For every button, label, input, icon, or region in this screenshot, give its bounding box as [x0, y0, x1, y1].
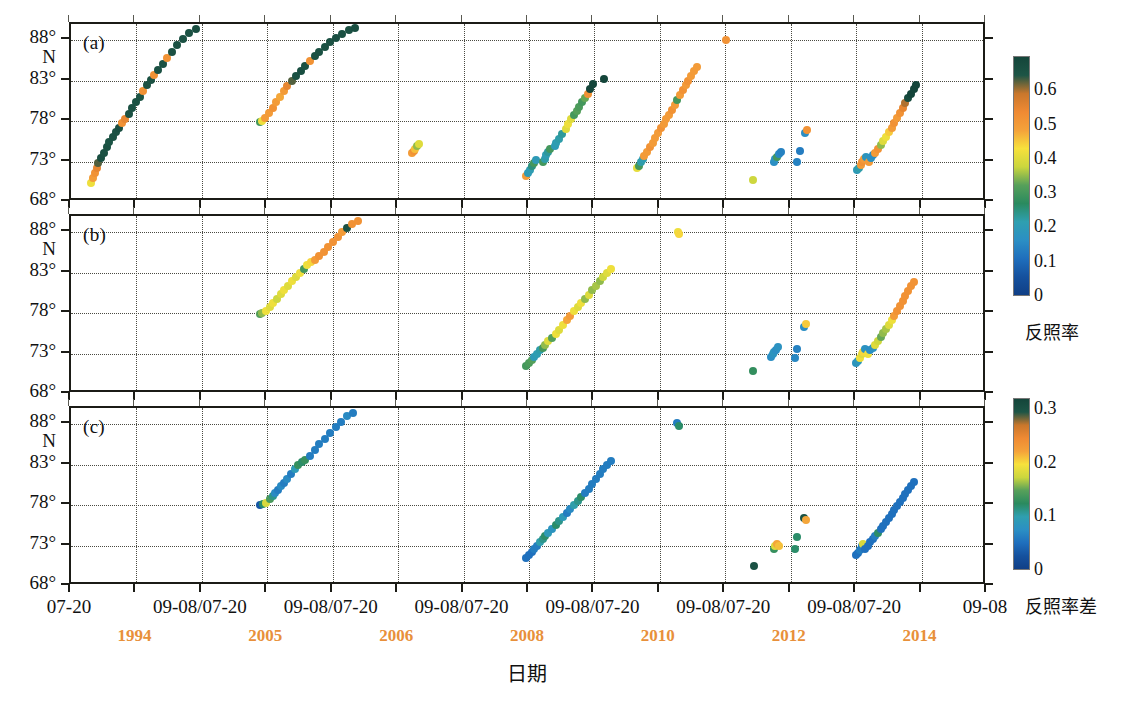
- x-axis-tick-top: [461, 15, 462, 22]
- y-axis-tick: [61, 421, 70, 423]
- vertical-gridline: [725, 24, 726, 198]
- plot-panel-c: (c): [69, 406, 985, 584]
- x-axis-year-label: 2006: [346, 626, 446, 646]
- data-point: [607, 265, 615, 273]
- data-point: [774, 343, 782, 351]
- vertical-gridline: [398, 24, 399, 198]
- x-axis-tick-top: [919, 207, 920, 214]
- x-axis-tick: [919, 584, 921, 592]
- panel-plot-area: [71, 24, 983, 198]
- vertical-gridline: [791, 216, 792, 390]
- x-axis-tick-top: [526, 399, 527, 406]
- y-axis-tick-label: 73°: [0, 533, 56, 552]
- colorbar-tick-label: 0: [1034, 285, 1043, 306]
- data-point: [354, 217, 362, 225]
- data-point: [675, 422, 683, 430]
- y-axis-tick-right: [984, 159, 993, 161]
- y-axis-tick: [61, 229, 70, 231]
- data-point: [793, 533, 801, 541]
- colorbar-tick-label: 0.5: [1034, 114, 1057, 135]
- data-point: [791, 354, 799, 362]
- plot-panel-b: (b): [69, 214, 985, 392]
- x-axis-tick-top: [264, 15, 265, 22]
- data-point: [607, 457, 615, 465]
- vertical-gridline: [594, 24, 595, 198]
- vertical-gridline: [660, 408, 661, 582]
- y-axis-tick-label: 73°: [0, 149, 56, 168]
- x-axis-tick-top: [330, 15, 331, 22]
- horizontal-gridline: [71, 232, 983, 233]
- panel-label: (c): [83, 416, 105, 438]
- y-axis-tick-label: 78°: [0, 300, 56, 319]
- x-axis-tick-top: [591, 399, 592, 406]
- x-axis-tick-top: [657, 207, 658, 214]
- x-axis-tick-top: [526, 207, 527, 214]
- x-axis-year-label: 2014: [870, 626, 970, 646]
- x-axis-tick: [68, 584, 70, 592]
- vertical-gridline: [202, 408, 203, 582]
- x-axis-tick: [199, 584, 201, 592]
- y-axis-tick-right: [984, 462, 993, 464]
- y-axis-tick: [61, 502, 70, 504]
- x-axis-year-label: 2005: [215, 626, 315, 646]
- y-axis-tick-label: 88°: [0, 219, 56, 238]
- y-axis-tick: [61, 118, 70, 120]
- x-axis-tick-top: [591, 15, 592, 22]
- x-axis-tick-top: [919, 15, 920, 22]
- y-axis-tick-right: [984, 118, 993, 120]
- y-axis-tick-label: 68°: [0, 381, 56, 400]
- x-axis-tick-top: [788, 399, 789, 406]
- y-axis-tick-right: [984, 351, 993, 353]
- x-axis-tick: [853, 584, 855, 592]
- x-axis-tick-top: [330, 399, 331, 406]
- vertical-gridline: [398, 216, 399, 390]
- y-axis-tick-right: [984, 310, 993, 312]
- x-axis-tick-top: [722, 207, 723, 214]
- y-axis-tick-right: [984, 502, 993, 504]
- albedo-colorbar: [1013, 56, 1030, 296]
- x-axis-tick-top: [199, 207, 200, 214]
- plot-panel-a: (a): [69, 22, 985, 200]
- colorbar-tick-label: 0.2: [1034, 452, 1057, 473]
- data-point: [192, 25, 200, 33]
- x-axis-tick-top: [461, 207, 462, 214]
- data-point: [802, 516, 810, 524]
- x-axis-year-label: 2010: [608, 626, 708, 646]
- panel-label: (a): [83, 32, 105, 54]
- y-axis-tick: [61, 543, 70, 545]
- y-axis-tick-label: 88°: [0, 27, 56, 46]
- y-axis-tick-label: 83°: [0, 452, 56, 471]
- y-axis-tick-right: [984, 270, 993, 272]
- x-axis-tick: [526, 584, 528, 592]
- horizontal-gridline: [71, 505, 983, 506]
- x-axis-tick-top: [395, 207, 396, 214]
- x-axis-tick-top: [788, 207, 789, 214]
- data-point: [802, 320, 810, 328]
- data-point: [600, 75, 608, 83]
- y-axis-tick: [61, 78, 70, 80]
- data-point: [351, 24, 359, 32]
- panel-plot-area: [71, 216, 983, 390]
- x-axis-tick-top: [68, 399, 69, 406]
- vertical-gridline: [202, 24, 203, 198]
- vertical-gridline: [464, 216, 465, 390]
- x-axis-tick: [395, 584, 397, 592]
- x-axis-tick: [264, 584, 266, 592]
- x-axis-tick-top: [722, 15, 723, 22]
- y-axis-tick: [61, 270, 70, 272]
- vertical-gridline: [725, 216, 726, 390]
- vertical-gridline: [594, 408, 595, 582]
- x-axis-tick-top: [984, 207, 985, 214]
- y-axis-tick-label: 83°: [0, 68, 56, 87]
- y-axis-tick: [61, 462, 70, 464]
- x-axis-tick: [330, 584, 332, 592]
- data-point: [793, 345, 801, 353]
- x-axis-tick: [788, 584, 790, 592]
- colorbar-tick-label: 0.1: [1034, 505, 1057, 526]
- vertical-gridline: [922, 216, 923, 390]
- y-axis-tick-label: 68°: [0, 573, 56, 592]
- horizontal-gridline: [71, 273, 983, 274]
- y-axis-tick: [61, 310, 70, 312]
- data-point: [722, 36, 730, 44]
- data-point: [349, 409, 357, 417]
